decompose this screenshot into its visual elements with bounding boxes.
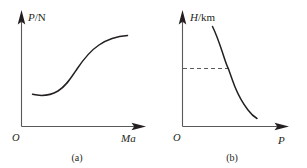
panel-b-caption: (b) — [226, 152, 238, 164]
panel-a-curve — [33, 36, 128, 96]
panel-a-y-axis-label: P/N — [27, 11, 46, 23]
panel-a-y-axis-label-unit: N — [38, 11, 46, 23]
panel-b-y-axis-label-unit: km — [201, 11, 216, 23]
figure-container: P/N Ma O (a) H/km P O (b) — [0, 0, 307, 168]
panel-b-y-axis-label: H/km — [189, 11, 216, 23]
panel-a-x-axis-label: Ma — [120, 132, 136, 144]
panel-b-curve — [213, 27, 258, 119]
panel-b-x-axis-label: P — [277, 134, 285, 146]
panel-a-caption: (a) — [71, 152, 82, 164]
panel-b-origin-label: O — [173, 132, 181, 143]
physics-figure-svg: P/N Ma O (a) H/km P O (b) — [0, 0, 307, 168]
panel-a-origin-label: O — [12, 132, 20, 143]
panel-b: H/km P O (b) — [173, 10, 289, 164]
panel-a: P/N Ma O (a) — [12, 10, 146, 164]
